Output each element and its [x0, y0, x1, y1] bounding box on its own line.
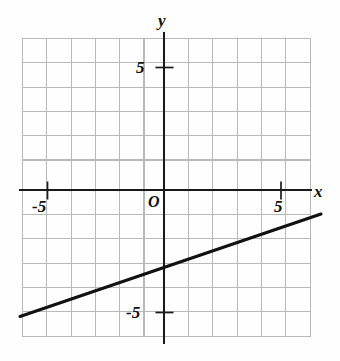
y-tick-label-5: 5	[136, 59, 145, 76]
y-tick-label-minus5: -5	[126, 304, 140, 321]
coordinate-plane-svg	[0, 0, 340, 361]
x-axis-label: x	[314, 183, 323, 200]
x-tick-label-5: 5	[274, 198, 283, 215]
x-tick-label-minus5: -5	[32, 198, 46, 215]
plotted-line-series	[20, 214, 321, 317]
grid-lines-horizontal	[23, 39, 311, 337]
origin-label: O	[148, 194, 160, 210]
grid-lines-vertical	[23, 38, 311, 337]
graph-figure: y x O 5 -5 -5 5	[0, 0, 340, 361]
y-axis-label: y	[158, 12, 166, 29]
